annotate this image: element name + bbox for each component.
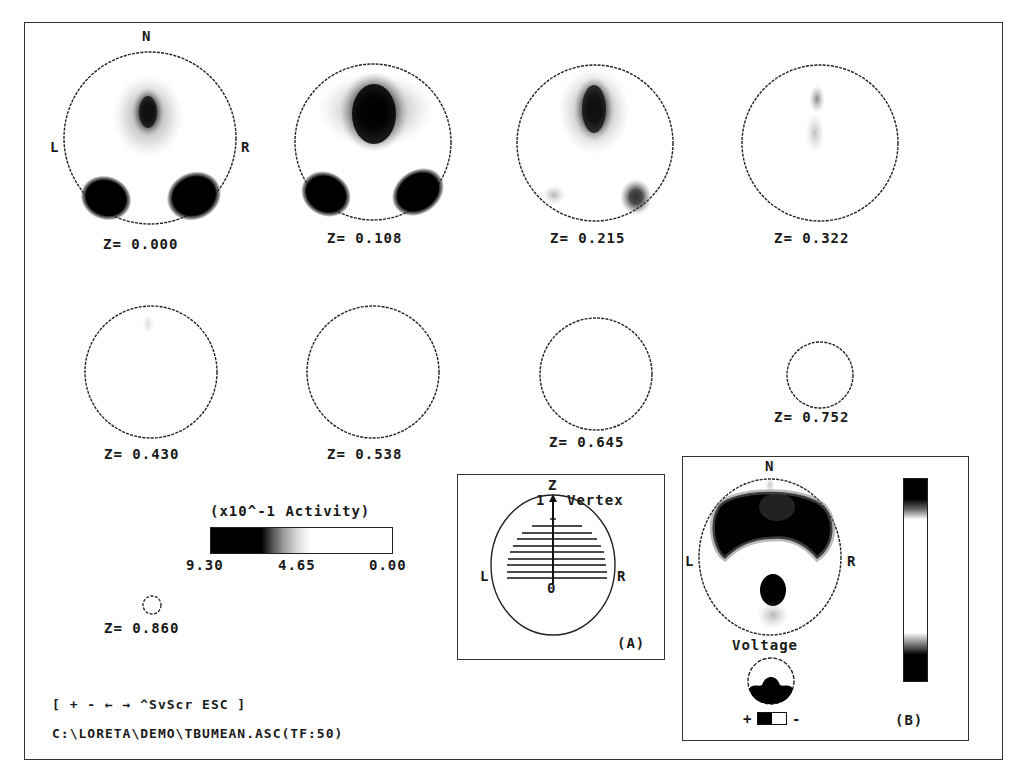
slice-label: Z= 0.322 [774,230,849,246]
slice-map-z0860 [142,594,162,616]
plus-label: + [743,711,752,727]
slice-label: Z= 0.645 [549,434,624,450]
panel-a-caption: (A) [617,635,645,651]
panel-b-caption: (B) [895,712,923,728]
slice-label: Z= 0.860 [104,620,179,636]
slice-map-z0215 [516,63,674,223]
left-label: L [50,139,59,155]
slice-label: Z= 0.538 [327,446,402,462]
z-top-value: 1 [536,492,545,508]
vertex-slice-diagram [457,474,665,660]
voltage-mini-map [746,655,796,707]
minus-label: - [792,711,801,727]
slice-map-z0645 [539,316,653,432]
polarity-legend [757,712,787,725]
north-label: N [142,28,151,44]
slice-label: Z= 0.108 [327,230,402,246]
right-label: R [617,568,626,584]
voltage-label: Voltage [732,637,798,653]
z-axis-label: Z [548,477,557,493]
slice-map-z0538 [306,304,440,440]
right-label: R [241,139,250,155]
slice-map-z0752 [786,340,854,410]
voltage-map [697,477,843,637]
z-origin-value: 0 [547,580,556,596]
slice-map-z0108 [294,62,452,222]
voltage-colorbar [903,478,928,682]
file-path: C:\LORETA\DEMO\TBUMEAN.ASC(TF:50) [52,726,343,741]
activity-colorbar [210,527,393,554]
scale-max-label: 9.30 [186,557,224,573]
slice-label: Z= 0.215 [550,230,625,246]
scale-mid-label: 4.65 [278,557,316,573]
vertex-label: Vertex [567,492,624,508]
slice-label: Z= 0.430 [104,446,179,462]
slice-label: Z= 0.752 [774,409,849,425]
left-label: L [685,553,694,569]
slice-map-z0000 [62,50,238,226]
north-label: N [765,458,774,474]
slice-map-z0322 [741,63,899,223]
right-label: R [847,553,856,569]
activity-scale-title: (x10^-1 Activity) [210,503,370,519]
slice-label: Z= 0.000 [103,236,178,252]
left-label: L [480,568,489,584]
scale-min-label: 0.00 [369,557,407,573]
slice-map-z0430 [84,304,218,440]
key-help: [ + - ← → ^SvScr ESC ] [52,697,246,712]
